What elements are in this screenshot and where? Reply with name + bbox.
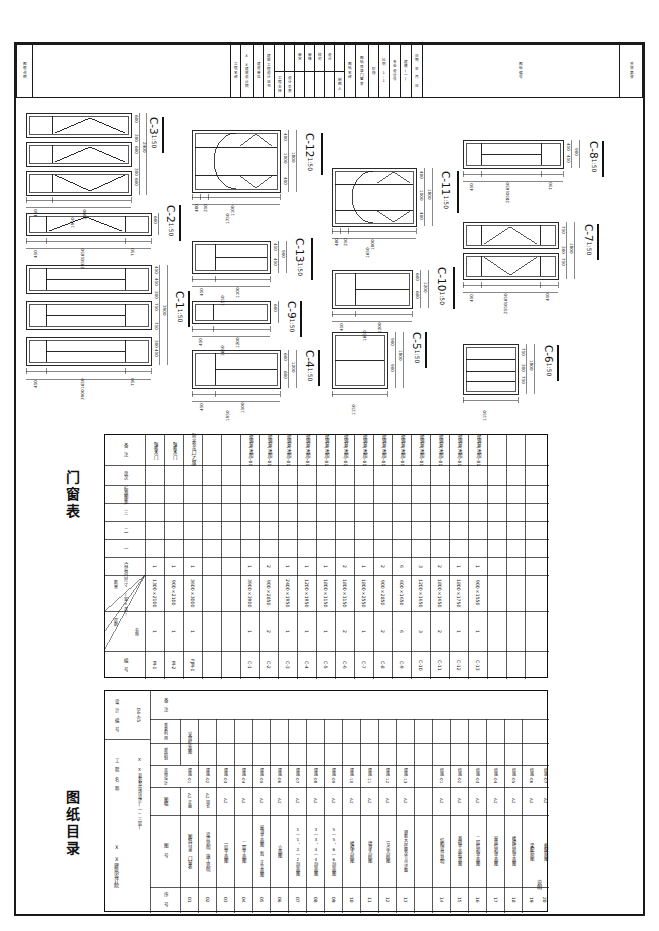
index-row-19-name: 板配筋图: [540, 815, 549, 887]
dw-header-floor2: 二: [105, 521, 145, 539]
dw-header-atlas: 标准图集: [105, 485, 145, 503]
dw-row-5-size: 3900×3900: [240, 575, 259, 611]
dim-C-7-h2: 300: [561, 246, 566, 254]
dim-C-2-w3: 750: [130, 238, 135, 256]
dw-row-5-f1: 1: [240, 611, 259, 651]
dim-C-3-w1: 450: [33, 199, 38, 217]
dw-row-17-remark: 塑钢窗(透明)-01: [468, 435, 487, 465]
dw-row-12-total: 2: [373, 557, 392, 575]
dim-C-1-h4: 750: [154, 303, 159, 311]
dim-C-8-wt: 2850: [505, 179, 510, 203]
index-row-12-name: 钢筋大样图及节点详图: [396, 815, 414, 887]
index-row-2-name: 一层平面图: [216, 815, 234, 887]
dim-C-4-w2: 1500: [240, 391, 245, 413]
index-row-14-no: 结施-02: [450, 765, 468, 787]
dim-C-13-w2: 1100: [235, 276, 240, 298]
dw-row-0-remark: 镶板木门: [145, 435, 164, 465]
dw-row-11-code: C-7: [354, 651, 373, 679]
dim-C-10-wt: 1650: [362, 319, 367, 341]
index-row-8-size: A2: [324, 787, 342, 815]
door-window-table-title: 门窗表: [62, 470, 82, 521]
window-tag-underline-C-12: [321, 133, 323, 175]
index-design-no-label: 设 计 编 号: [105, 691, 127, 739]
window-tag-C-9: C-91:50: [286, 301, 298, 332]
dim-C-12-w2: 250: [203, 196, 208, 212]
index-row-3-seq: 04: [234, 887, 252, 913]
window-tag-C-5: C-51:50: [411, 332, 423, 363]
index-row-15-seq: 16: [468, 887, 486, 913]
index-row-19-no: 结施-07: [540, 765, 549, 787]
index-row-6-name: 1—1、2—2剖面图: [288, 815, 306, 887]
index-row-7-size: A2: [306, 787, 324, 815]
index-row-16-name: 屋面结构平面图: [486, 815, 504, 887]
dim-C-1-w3: 750: [130, 368, 135, 386]
dim-C-3-h2: 300: [134, 134, 139, 142]
dw-row-1-remark: 镶板木门: [164, 435, 183, 465]
dw-row-5-code: C-1: [240, 651, 259, 679]
window-tag-C-6: C-61:50: [543, 345, 555, 376]
dim-C-12-ht: 1800: [291, 152, 296, 163]
index-row-4-seq: 05: [252, 887, 270, 913]
dw-row-5-remark: 塑钢窗(透明)-01: [240, 435, 259, 465]
window-tag-underline-C-1: [188, 291, 190, 327]
window-elevation-C-11: [332, 168, 432, 238]
dw-row-2-size: 3600×3000: [183, 575, 202, 611]
index-row-9-seq: 10: [342, 887, 360, 913]
dim-C-1-h2: 450: [154, 278, 159, 286]
dim-C-3-h3: 600: [134, 146, 139, 154]
index-header-atlas: 采用标准图: [180, 719, 198, 765]
index-row-8-no: 建施-09: [324, 765, 342, 787]
dim-C-4-ht: 1200: [291, 362, 296, 373]
window-tag-underline-C-4: [318, 350, 320, 386]
door-window-table: 备 注 页次 标准图集 三 二 一 合计 数量 层数 名称 编 号 镶板木门 1…: [104, 434, 548, 678]
dim-C-7-ht: 1800: [569, 243, 574, 254]
dim-C-6-wt: 1150: [482, 399, 487, 421]
dim-C-1-h7: 450: [154, 349, 159, 357]
index-row-13-size: A2: [432, 787, 450, 815]
dim-C-7-h1: 750: [561, 226, 566, 234]
index-row-7-name: 3—3、4—4剖面图: [306, 815, 324, 887]
index-row-6-no: 建施-07: [288, 765, 306, 787]
window-tag-C-10: C-101:50: [436, 267, 448, 305]
dw-row-16-f1: 1: [449, 611, 468, 651]
index-row-15-no: 结施-03: [468, 765, 486, 787]
window-tag-underline-C-6: [557, 345, 559, 381]
dw-row-8-f1: 1: [297, 611, 316, 651]
window-tag-C-13: C-131:50: [294, 238, 306, 276]
dim-C-3-w2: 1500: [82, 196, 87, 220]
index-header-atlas-page: 其他设计: [150, 765, 180, 787]
window-tag-underline-C-5: [425, 332, 427, 368]
dw-row-13-code: C-9: [392, 651, 411, 679]
index-row-6-size: A2: [288, 787, 306, 815]
dw-row-1-total: 1: [164, 557, 183, 575]
dim-C-1-h5: 750: [154, 322, 159, 330]
dw-row-7-remark: 塑钢窗(透明)-01: [278, 435, 297, 465]
index-row-12-size: A2: [396, 787, 414, 815]
dim-C-12-w1: 400: [194, 196, 199, 212]
dw-header-page: 页次: [105, 465, 145, 485]
index-row-12-seq: 13: [396, 887, 414, 913]
dw-row-16-code: C-12: [449, 651, 468, 679]
index-row-10-name: 墙身大样图: [360, 815, 378, 887]
dw-row-12-remark: 塑钢窗(透明)-01: [373, 435, 392, 465]
dw-row-16-size: 1800×1750: [449, 575, 468, 611]
dw-row-17-f1: 1: [468, 611, 487, 651]
window-elevation-C-3: [26, 113, 146, 207]
index-row-4-name: 屋顶平面图 新、正立面图: [252, 815, 270, 887]
dw-row-7-size: 2400×1950: [278, 575, 297, 611]
window-tag-C-4: C-41:50: [304, 350, 316, 381]
dw-row-17-code: C-13: [468, 651, 487, 679]
index-row-2-size: A2: [216, 787, 234, 815]
dw-row-0-code: M-1: [145, 651, 164, 679]
index-row-11-seq: 12: [378, 887, 396, 913]
index-row-3-no: 建施-04: [234, 765, 252, 787]
dw-row-10-total: 2: [335, 557, 354, 575]
index-row-17-size: A2: [504, 787, 522, 815]
dim-C-5-ht: 1800: [398, 350, 403, 361]
index-row-7-no: 建施-08: [306, 765, 324, 787]
dw-row-11-total: 1: [354, 557, 373, 575]
dim-C-3-wt: 1950: [70, 204, 75, 228]
dw-row-11-f1: 1: [354, 611, 373, 651]
dim-C-12-h3: 400: [283, 177, 288, 185]
dim-C-6-ht: 1800: [529, 360, 534, 371]
